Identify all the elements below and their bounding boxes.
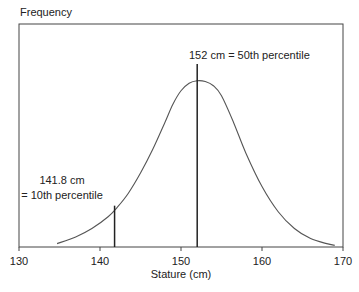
distribution-curve <box>57 81 335 246</box>
y-axis-label: Frequency <box>20 6 72 18</box>
x-axis-label: Stature (cm) <box>151 268 212 280</box>
x-tick-label: 170 <box>334 255 352 267</box>
x-tick-label: 150 <box>172 255 190 267</box>
chart: Frequency 130140150160170 141.8 cm= 10th… <box>0 0 359 292</box>
percentile-50-label: 152 cm = 50th percentile <box>189 49 310 61</box>
x-tick-label: 140 <box>91 255 109 267</box>
percentile-10-label: 141.8 cm <box>39 174 84 186</box>
percentile-10-label: = 10th percentile <box>21 189 103 201</box>
x-tick-label: 160 <box>253 255 271 267</box>
x-tick-label: 130 <box>10 255 28 267</box>
